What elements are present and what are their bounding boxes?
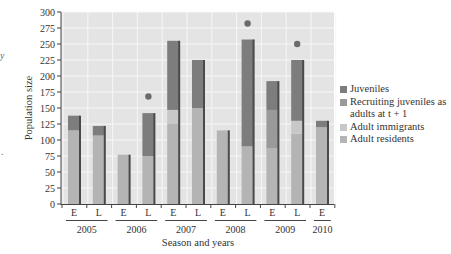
bar-segment: [192, 108, 204, 204]
legend-label: Adult immigrants: [350, 121, 424, 134]
season-label: E: [71, 207, 77, 218]
bar-edge: [153, 113, 155, 204]
year-label: 2009: [275, 224, 295, 235]
bar-segment: [266, 110, 278, 148]
bar-segment: [93, 126, 105, 136]
edge-fragment-top: y: [0, 50, 4, 61]
bar-segment: [316, 121, 328, 127]
legend-swatch: [340, 124, 347, 131]
bar-segment: [167, 124, 179, 204]
legend-item-recruiting-juveniles: Recruiting juveniles as adults at t + 1: [340, 96, 451, 121]
bar-segment: [266, 148, 278, 204]
y-tick-label: 150: [40, 103, 55, 114]
season-label: L: [96, 207, 102, 218]
year-label: 2010: [312, 224, 332, 235]
bar-edge: [203, 60, 205, 204]
y-axis-ticks: 0255075100125150175200225250275300: [40, 7, 61, 210]
bar-edge: [327, 121, 329, 204]
y-tick-label: 275: [40, 23, 55, 34]
y-tick-label: 225: [40, 55, 55, 66]
bar-stack: [68, 116, 81, 204]
x-axis-title: Season and years: [162, 237, 234, 248]
y-tick-label: 300: [40, 7, 55, 18]
season-label: E: [269, 207, 275, 218]
bar-stack: [118, 155, 131, 204]
x-axis-ticks: ELELELELELE200520062007200820092010: [62, 204, 335, 235]
bar-segment: [68, 116, 80, 131]
bar-edge: [253, 40, 255, 204]
bar-edge: [178, 41, 180, 204]
bar-edge: [129, 155, 131, 204]
bar-edge: [277, 81, 279, 204]
bar-segment: [68, 130, 80, 204]
bar-segment: [142, 156, 154, 204]
bar-segment: [316, 127, 328, 204]
bar-stack: [142, 113, 155, 204]
data-point-marker: [244, 20, 250, 26]
legend-label: Juveniles: [350, 83, 389, 96]
year-label: 2008: [226, 224, 246, 235]
edge-fragment-bottom: .: [1, 146, 4, 157]
legend-item-adult-immigrants: Adult immigrants: [340, 121, 451, 134]
bar-segment: [242, 40, 254, 147]
y-tick-label: 200: [40, 71, 55, 82]
legend-item-juveniles: Juveniles: [340, 83, 451, 96]
legend-item-adult-residents: Adult residents: [340, 133, 451, 146]
legend-swatch: [340, 86, 347, 93]
bar-stack: [242, 40, 255, 204]
bar-stack: [291, 60, 304, 204]
y-tick-label: 100: [40, 135, 55, 146]
legend-label: Adult residents: [350, 133, 414, 146]
season-label: L: [145, 207, 151, 218]
year-label: 2007: [176, 224, 196, 235]
data-point-marker: [294, 41, 300, 47]
bar-segment: [118, 155, 130, 204]
y-tick-label: 50: [45, 167, 55, 178]
bar-segment: [192, 60, 204, 108]
bar-edge: [302, 60, 304, 204]
legend-swatch: [340, 136, 347, 143]
bar-segment: [242, 146, 254, 204]
season-label: E: [319, 207, 325, 218]
bar-stack: [192, 60, 205, 204]
season-label: L: [195, 207, 201, 218]
season-label: L: [245, 207, 251, 218]
legend: Juveniles Recruiting juveniles as adults…: [340, 83, 451, 146]
bar-segment: [167, 41, 179, 110]
bar-segment: [266, 81, 278, 110]
y-tick-label: 25: [45, 183, 55, 194]
bar-stack: [167, 41, 180, 204]
legend-label: Recruiting juveniles as adults at t + 1: [350, 96, 451, 121]
bar-segment: [291, 60, 303, 121]
bar-edge: [104, 126, 106, 204]
bar-stack: [316, 121, 329, 204]
season-label: E: [220, 207, 226, 218]
bar-stack: [93, 126, 106, 204]
year-label: 2006: [126, 224, 146, 235]
y-tick-label: 125: [40, 119, 55, 130]
y-tick-label: 0: [50, 199, 55, 210]
y-tick-label: 250: [40, 39, 55, 50]
season-label: E: [121, 207, 127, 218]
bar-segment: [93, 136, 105, 204]
y-tick-label: 75: [45, 151, 55, 162]
bar-stack: [266, 81, 279, 204]
bar-segment: [291, 121, 303, 134]
y-tick-label: 175: [40, 87, 55, 98]
bar-segment: [167, 110, 179, 124]
bar-segment: [291, 134, 303, 204]
season-label: E: [170, 207, 176, 218]
legend-swatch: [340, 99, 347, 106]
bar-edge: [79, 116, 81, 204]
bar-stack: [217, 130, 230, 204]
bar-segment: [142, 113, 154, 156]
season-label: L: [294, 207, 300, 218]
y-axis-title: Population size: [23, 75, 34, 140]
data-point-marker: [145, 93, 151, 99]
bar-segment: [217, 130, 229, 204]
year-label: 2005: [77, 224, 97, 235]
bar-edge: [228, 130, 230, 204]
